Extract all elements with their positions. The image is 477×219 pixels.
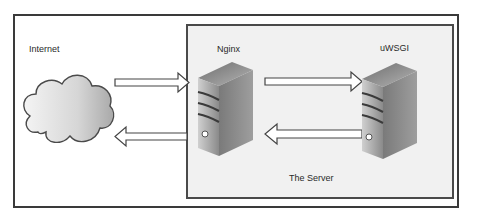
arrow-nginx-to-internet xyxy=(115,127,187,146)
nginx-server-icon xyxy=(198,62,253,156)
cloud-icon xyxy=(24,75,114,142)
uwsgi-server-icon xyxy=(362,63,417,159)
arrow-internet-to-nginx xyxy=(115,73,189,92)
diagram-graphics xyxy=(0,0,477,219)
arrow-uwsgi-to-nginx xyxy=(265,124,362,144)
arrow-nginx-to-uwsgi xyxy=(265,72,362,91)
